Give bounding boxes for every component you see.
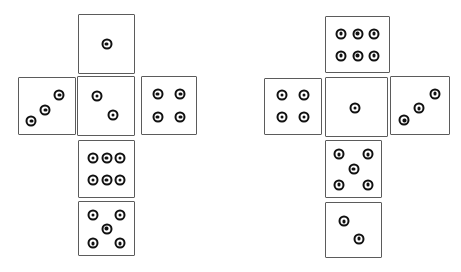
pip — [299, 89, 310, 100]
pip — [276, 111, 287, 122]
right-net-face-middle-left — [264, 78, 322, 135]
pip — [276, 89, 287, 100]
right-net-face-top — [325, 16, 390, 73]
pip — [368, 50, 379, 61]
pip — [430, 88, 441, 99]
pip — [413, 103, 424, 114]
pip — [334, 179, 345, 190]
pip — [352, 28, 363, 39]
pip — [354, 233, 365, 244]
pip — [348, 164, 359, 175]
pip — [336, 28, 347, 39]
pip — [399, 115, 410, 126]
pip — [362, 179, 373, 190]
right-net-face-bottom-upper — [325, 140, 382, 198]
right-net-face-middle-center — [325, 77, 388, 137]
right-dice-net — [0, 0, 461, 272]
pip — [334, 149, 345, 160]
pip — [352, 50, 363, 61]
pip — [362, 149, 373, 160]
right-net-face-bottom-lower — [325, 202, 382, 258]
dice-nets-figure — [0, 0, 461, 272]
pip — [350, 103, 361, 114]
pip — [339, 216, 350, 227]
right-net-face-middle-right — [390, 76, 450, 135]
pip — [336, 50, 347, 61]
pip — [368, 28, 379, 39]
pip — [299, 111, 310, 122]
